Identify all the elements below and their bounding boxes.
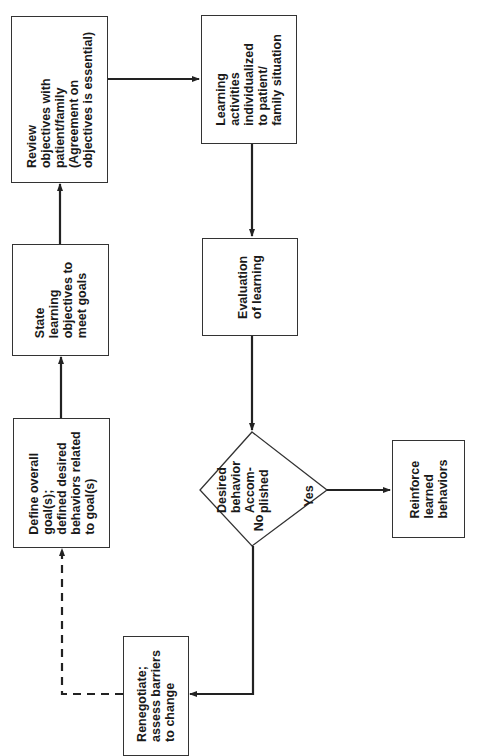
node-state-objectives-text: State learning objectives to meet goals (33, 262, 89, 338)
node-review-objectives: Review objectives with patient/family (A… (11, 16, 108, 183)
node-state-objectives: State learning objectives to meet goals (12, 244, 109, 356)
label-yes: Yes (302, 485, 316, 507)
label-no: No (252, 515, 266, 532)
node-learning-activities-text: Learning activities individualized to pa… (214, 34, 284, 126)
node-reinforce-behaviors: Reinforce learned behaviors (392, 440, 465, 538)
node-renegotiate-text: Renegotiate; assess barriers to change (135, 650, 177, 742)
node-learning-activities: Learning activities individualized to pa… (201, 15, 297, 144)
node-renegotiate: Renegotiate; assess barriers to change (123, 636, 189, 756)
node-define-goals: Define overall goal(s); defined desired … (13, 418, 110, 548)
node-evaluation-text: Evaluation of learning (236, 255, 264, 319)
decision-text: Desired behavior Accom- plished (215, 461, 271, 513)
arrow-no-to-renegotiate (190, 546, 253, 694)
arrow-renegotiate-to-define (62, 549, 123, 694)
node-review-objectives-text: Review objectives with patient/family (A… (25, 31, 95, 167)
node-define-goals-text: Define overall goal(s); defined desired … (27, 431, 97, 535)
node-reinforce-behaviors-text: Reinforce learned behaviors (408, 459, 450, 518)
node-evaluation: Evaluation of learning (202, 238, 298, 336)
